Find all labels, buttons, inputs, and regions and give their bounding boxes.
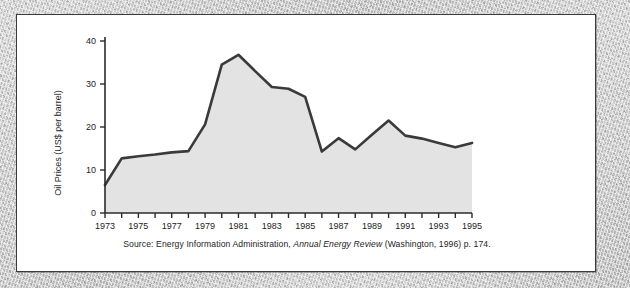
x-tick-label: 1979: [195, 221, 215, 230]
area-fill: [105, 55, 472, 213]
chart-plot-area: Oil Prices (US$ per barrel) 010203040 19…: [17, 15, 597, 230]
x-tick-label: 1975: [128, 221, 148, 230]
oil-price-figure-panel: Oil Prices (US$ per barrel) 010203040 19…: [16, 14, 596, 272]
x-tick-label: 1983: [262, 221, 282, 230]
x-tick-label: 1991: [395, 221, 415, 230]
x-tick-label: 1977: [162, 221, 182, 230]
y-axis-tick-labels: 010203040: [86, 36, 96, 218]
x-tick-label: 1985: [295, 221, 315, 230]
caption-suffix: (Washington, 1996) p. 174.: [382, 239, 490, 249]
x-tick-label: 1987: [329, 221, 349, 230]
y-tick-label: 30: [86, 79, 96, 89]
source-caption: Source: Energy Information Administratio…: [17, 239, 597, 249]
x-tick-label: 1973: [95, 221, 115, 230]
x-tick-label: 1981: [228, 221, 248, 230]
x-tick-label: 1989: [362, 221, 382, 230]
page-background: Oil Prices (US$ per barrel) 010203040 19…: [0, 0, 630, 288]
y-axis-label: Oil Prices (US$ per barrel): [53, 90, 63, 196]
y-tick-label: 0: [91, 208, 96, 218]
caption-prefix: Source: Energy Information Administratio…: [123, 239, 293, 249]
x-tick-label: 1993: [429, 221, 449, 230]
y-tick-label: 20: [86, 122, 96, 132]
oil-price-area-chart: Oil Prices (US$ per barrel) 010203040 19…: [17, 15, 597, 230]
x-tick-label: 1995: [462, 221, 482, 230]
y-tick-label: 40: [86, 36, 96, 46]
y-tick-label: 10: [86, 165, 96, 175]
x-axis-tick-labels: 1973197519771979198119831985198719891991…: [95, 221, 482, 230]
caption-italic-title: Annual Energy Review: [293, 239, 382, 249]
